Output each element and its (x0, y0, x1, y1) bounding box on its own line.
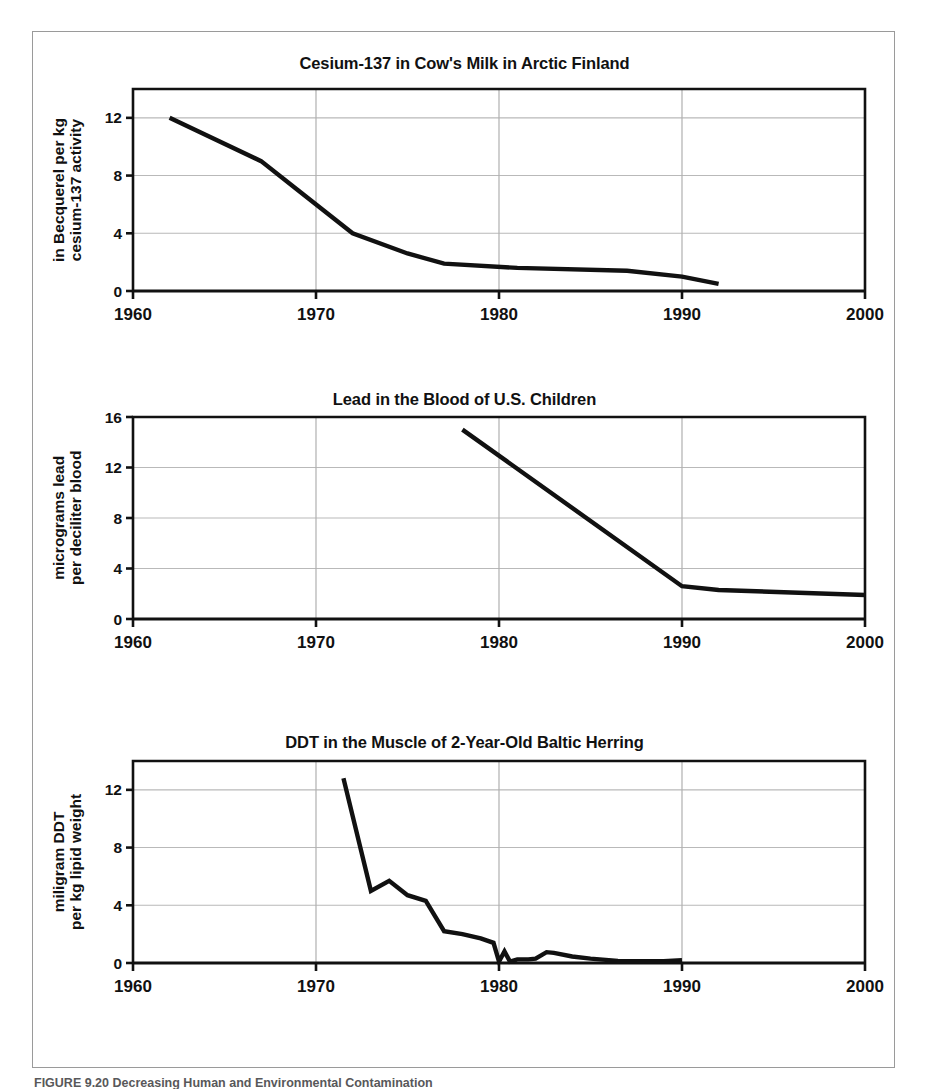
figure-frame: Cesium-137 in Cow's Milk in Arctic Finla… (32, 31, 895, 1068)
x-tick-label: 1960 (114, 633, 152, 652)
x-tick-label: 2000 (846, 633, 884, 652)
y-tick-label: 12 (105, 459, 122, 476)
y-tick-label: 0 (113, 283, 122, 300)
x-tick-label: 2000 (846, 305, 884, 324)
x-tick-label: 1970 (297, 633, 335, 652)
y-tick-label: 0 (113, 955, 122, 972)
x-tick-label: 1980 (480, 305, 518, 324)
y-tick-label: 0 (113, 611, 122, 628)
y-tick-label: 4 (113, 560, 122, 577)
x-tick-label: 1960 (114, 305, 152, 324)
x-tick-label: 1990 (663, 977, 701, 996)
data-line-2 (462, 430, 865, 595)
chart-panel-ddt: DDT in the Muscle of 2-Year-Old Baltic H… (33, 723, 896, 1067)
figure-caption: FIGURE 9.20 Decreasing Human and Environ… (34, 1076, 894, 1089)
chart-plot-ddt: 0481219601970198019902000 (33, 723, 896, 1067)
x-tick-label: 1990 (663, 305, 701, 324)
y-tick-label: 8 (113, 510, 122, 527)
y-tick-label: 8 (113, 839, 122, 856)
x-tick-label: 1980 (480, 977, 518, 996)
y-tick-label: 8 (113, 167, 122, 184)
data-line-3 (343, 778, 682, 961)
data-line-1 (170, 118, 719, 284)
x-tick-label: 2000 (846, 977, 884, 996)
x-tick-label: 1960 (114, 977, 152, 996)
y-tick-label: 16 (105, 409, 123, 426)
chart-plot-lead: 048121619601970198019902000 (33, 378, 896, 723)
y-tick-label: 12 (105, 109, 122, 126)
y-tick-label: 4 (113, 225, 122, 242)
chart-panel-lead: Lead in the Blood of U.S. Children micro… (33, 378, 896, 723)
chart-panel-cesium: Cesium-137 in Cow's Milk in Arctic Finla… (33, 32, 896, 378)
x-tick-label: 1980 (480, 633, 518, 652)
x-tick-label: 1970 (297, 977, 335, 996)
y-tick-label: 4 (113, 897, 122, 914)
x-tick-label: 1970 (297, 305, 335, 324)
y-tick-label: 12 (105, 781, 122, 798)
x-tick-label: 1990 (663, 633, 701, 652)
chart-plot-cesium: 0481219601970198019902000 (33, 32, 896, 378)
